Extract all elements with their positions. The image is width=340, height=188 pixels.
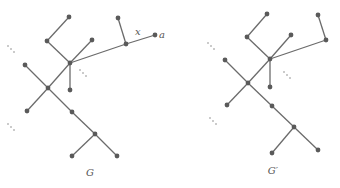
node-n12	[115, 154, 120, 159]
ellipsis-icon	[207, 42, 215, 50]
graph-G: xaG	[7, 15, 165, 178]
edge	[72, 134, 95, 156]
node-hub	[268, 57, 273, 62]
edge	[95, 134, 117, 156]
ellipsis-icon	[283, 71, 291, 79]
graph-diagram: xaGG′	[0, 0, 340, 188]
edge	[272, 106, 294, 127]
node-center	[46, 86, 51, 91]
node-n9	[70, 110, 75, 115]
node-n8	[225, 103, 230, 108]
edge	[247, 37, 270, 59]
node-center	[246, 81, 251, 86]
node-n12	[316, 148, 321, 153]
node-x	[124, 42, 129, 47]
node-t1	[265, 12, 270, 17]
vertex-label: a	[159, 29, 165, 40]
ellipsis-icon	[7, 45, 15, 53]
node-a	[153, 33, 158, 38]
node-n8	[25, 109, 30, 114]
node-n10	[93, 132, 98, 137]
node-n11	[270, 151, 275, 156]
node-n3	[289, 33, 294, 38]
edge	[318, 15, 326, 40]
edge	[227, 83, 248, 105]
node-n7	[68, 88, 73, 93]
edge	[47, 41, 70, 63]
node-n7	[268, 85, 273, 90]
node-tr	[316, 13, 321, 18]
edge	[118, 18, 126, 44]
node-n9	[270, 104, 275, 109]
node-left	[23, 63, 28, 68]
edge	[47, 17, 69, 41]
node-hub	[68, 61, 73, 66]
node-r	[324, 38, 329, 43]
edge	[225, 60, 248, 83]
edge	[27, 88, 48, 111]
node-t1	[67, 15, 72, 20]
edge	[48, 63, 70, 88]
graph-G-prime: G′	[207, 12, 328, 176]
vertex-label: x	[135, 26, 141, 37]
ellipsis-icon	[79, 69, 87, 77]
edge	[294, 127, 318, 150]
graph-label: G′	[268, 165, 279, 176]
ellipsis-icon	[7, 123, 15, 131]
ellipsis-icon	[209, 117, 217, 125]
node-n2	[245, 35, 250, 40]
node-left	[223, 58, 228, 63]
node-tr	[116, 16, 121, 21]
node-n2	[45, 39, 50, 44]
edge	[25, 65, 48, 88]
edge	[248, 59, 270, 83]
edge	[72, 112, 95, 134]
node-n11	[70, 154, 75, 159]
edge	[247, 14, 267, 37]
graph-label: G	[86, 167, 94, 178]
node-n3	[90, 38, 95, 43]
node-n10	[292, 125, 297, 130]
edge	[272, 127, 294, 153]
